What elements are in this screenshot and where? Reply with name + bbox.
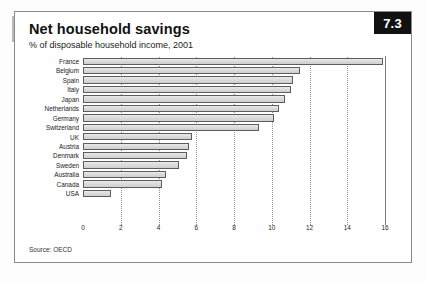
- bar-row: [83, 85, 385, 94]
- figure-frame: 7.3 Net household savings % of disposabl…: [14, 11, 412, 263]
- x-tick-label: 8: [232, 224, 236, 231]
- bar: [83, 190, 111, 197]
- category-label: Japan: [15, 95, 82, 104]
- category-label: Sweden: [15, 161, 82, 170]
- bars-layer: [83, 57, 385, 199]
- bar-row: [83, 161, 385, 170]
- bar: [83, 171, 166, 178]
- x-tick-label: 6: [194, 224, 198, 231]
- category-label: France: [15, 57, 82, 66]
- x-tick-label: 10: [268, 224, 275, 231]
- figure-number-badge: 7.3: [374, 12, 411, 34]
- bar-chart: FranceBelgiumSpainItalyJapanNetherlandsG…: [15, 57, 411, 247]
- category-label: USA: [15, 189, 82, 198]
- bar: [83, 95, 285, 102]
- bar: [83, 86, 291, 93]
- bar: [83, 133, 192, 140]
- bar-row: [83, 151, 385, 160]
- bar-row: [83, 142, 385, 151]
- bar: [83, 143, 189, 150]
- bar-row: [83, 189, 385, 198]
- category-label: Australia: [15, 170, 82, 179]
- bar-row: [83, 170, 385, 179]
- category-label: Netherlands: [15, 104, 82, 113]
- plot-area: [83, 57, 385, 217]
- bar: [83, 161, 179, 168]
- category-axis-labels: FranceBelgiumSpainItalyJapanNetherlandsG…: [15, 57, 82, 199]
- category-label: Spain: [15, 76, 82, 85]
- x-tick-label: 14: [344, 224, 351, 231]
- bar-row: [83, 133, 385, 142]
- page-subtitle: % of disposable household income, 2001: [29, 40, 193, 50]
- x-tick-label: 2: [119, 224, 123, 231]
- bar: [83, 58, 383, 65]
- bar: [83, 114, 274, 121]
- category-label: Austria: [15, 142, 82, 151]
- bar-row: [83, 180, 385, 189]
- bar-row: [83, 114, 385, 123]
- value-axis: 0246810121416: [83, 217, 385, 237]
- bar: [83, 76, 293, 83]
- bar: [83, 67, 300, 74]
- x-tick-label: 4: [157, 224, 161, 231]
- bar-row: [83, 66, 385, 75]
- category-label: Denmark: [15, 151, 82, 160]
- page-title: Net household savings: [29, 21, 190, 37]
- bar: [83, 152, 187, 159]
- x-tick-label: 12: [306, 224, 313, 231]
- category-label: Italy: [15, 85, 82, 94]
- x-tick-label: 0: [81, 224, 85, 231]
- bar-row: [83, 76, 385, 85]
- category-label: Switzerland: [15, 123, 82, 132]
- bar: [83, 180, 162, 187]
- category-label: UK: [15, 133, 82, 142]
- bar-row: [83, 57, 385, 66]
- bar: [83, 105, 279, 112]
- bar-row: [83, 104, 385, 113]
- category-label: Germany: [15, 114, 82, 123]
- source-note: Source: OECD: [29, 246, 72, 253]
- bar: [83, 124, 259, 131]
- axis-line-right: [385, 56, 386, 225]
- bar-row: [83, 95, 385, 104]
- figure-page: 7.3 Net household savings % of disposabl…: [0, 0, 426, 284]
- category-label: Canada: [15, 180, 82, 189]
- bar-row: [83, 123, 385, 132]
- category-label: Belgium: [15, 66, 82, 75]
- x-tick-label: 16: [381, 224, 388, 231]
